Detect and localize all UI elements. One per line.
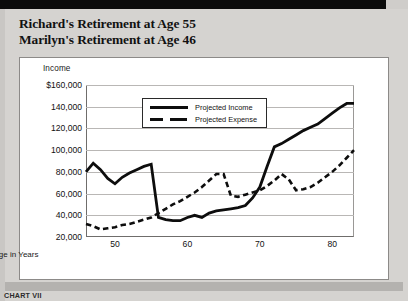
page-title-line-2: Marilyn's Retirement at Age 46: [19, 32, 349, 48]
legend-solid-line-swatch: [148, 102, 190, 112]
y-axis-tick-label: 100,000: [51, 145, 82, 155]
y-axis-tick-label: 140,000: [51, 102, 82, 112]
x-axis-title: Age in Years: [0, 250, 408, 259]
y-axis-tick-label: 80,000: [56, 167, 82, 177]
screenshot-page: Richard's Retirement at Age 55 Marilyn's…: [0, 0, 408, 301]
page-top-bar-notch: [386, 0, 408, 9]
x-axis-tick-label: 60: [183, 239, 193, 249]
page-title-line-1: Richard's Retirement at Age 55: [19, 16, 349, 32]
y-axis-tick-label: 120,000: [51, 123, 82, 133]
x-axis-tick-label: 50: [110, 239, 120, 249]
page-top-black-bar: [0, 0, 408, 9]
legend-dashed-line-swatch: [148, 114, 190, 124]
legend-entry-income: Projected Income: [148, 101, 253, 113]
y-axis-tick-label: 60,000: [56, 189, 82, 199]
y-axis-title: Income: [43, 64, 70, 73]
y-axis-tick-label: $160,000: [46, 80, 82, 90]
series-line-projected-expense: [86, 150, 354, 229]
x-axis-tick-label: 80: [327, 239, 337, 249]
y-axis-tick-label: 20,000: [56, 232, 82, 242]
y-axis-tick-label: 40,000: [56, 210, 82, 220]
x-axis-title-text: Age in Years: [0, 250, 38, 259]
page-title: Richard's Retirement at Age 55 Marilyn's…: [19, 16, 349, 47]
chart-legend: Projected Income Projected Expense: [142, 98, 267, 128]
page-bottom-strip: [5, 282, 403, 291]
legend-label-income: Projected Income: [195, 103, 253, 112]
chart-caption: CHART VII: [4, 291, 42, 300]
x-axis-tick-label: 70: [255, 239, 265, 249]
y-axis-tick-labels: $160,000140,000120,000100,00080,00060,00…: [0, 85, 82, 237]
legend-label-expense: Projected Expense: [195, 115, 257, 124]
legend-entry-expense: Projected Expense: [148, 113, 257, 125]
